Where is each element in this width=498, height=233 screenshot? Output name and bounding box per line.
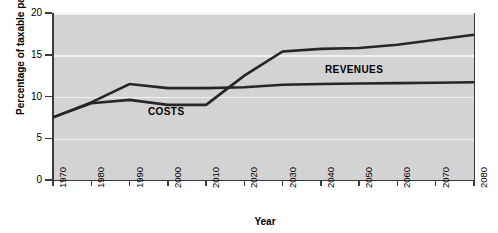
y-axis-tick-label: 15 (2, 50, 42, 60)
x-axis-tick-label: 1990 (134, 167, 145, 188)
x-axis-tick (282, 180, 284, 186)
x-axis-tick-label: 2000 (172, 167, 183, 188)
x-axis-tick-label: 2010 (210, 167, 221, 188)
y-axis-tick-label: 10 (2, 92, 42, 102)
x-axis-tick (167, 180, 169, 186)
y-axis-title: Percentage of taxable payroll (15, 0, 26, 126)
y-axis-tick (45, 138, 52, 140)
x-axis-tick (320, 180, 322, 186)
x-axis-tick (358, 180, 360, 186)
x-axis-tick (52, 180, 54, 186)
x-axis-tick-label: 2030 (287, 167, 298, 188)
x-axis-tick (205, 180, 207, 186)
x-axis-tick-label: 2020 (248, 167, 259, 188)
y-axis-tick (45, 54, 52, 56)
series-label-costs: COSTS (148, 106, 184, 117)
x-axis-tick (435, 180, 437, 186)
x-axis-tick (473, 180, 475, 186)
x-axis-tick (397, 180, 399, 186)
x-axis-title-text: Year (254, 216, 275, 227)
series-label-revenues: REVENUES (325, 64, 383, 75)
y-axis-tick-label: 0 (2, 175, 42, 185)
x-axis-tick (244, 180, 246, 186)
chart-figure: Percentage of taxable payroll COSTS REVE… (0, 0, 498, 233)
y-axis-tick-label: 5 (2, 133, 42, 143)
x-axis-tick-label: 2040 (325, 167, 336, 188)
x-axis-tick (129, 180, 131, 186)
x-axis-tick-label: 2060 (401, 167, 412, 188)
x-axis-tick-label: 2080 (478, 167, 489, 188)
x-axis-title: Year (0, 216, 498, 227)
x-axis-tick-label: 1970 (57, 167, 68, 188)
page-footer-artifact (0, 230, 498, 233)
x-axis-tick-label: 2050 (363, 167, 374, 188)
y-axis-tick-label: 20 (2, 8, 42, 18)
x-axis-tick (91, 180, 93, 186)
series-lines (53, 13, 474, 180)
x-axis-tick-label: 2070 (440, 167, 451, 188)
y-axis-tick (45, 96, 52, 98)
y-axis-tick (45, 12, 52, 14)
series-line-costs (53, 35, 474, 118)
y-axis-tick (45, 179, 52, 181)
x-axis-tick-label: 1980 (95, 167, 106, 188)
